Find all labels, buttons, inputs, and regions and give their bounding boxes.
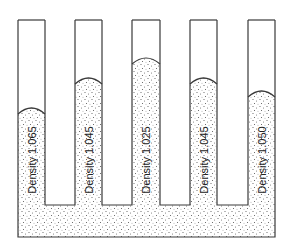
- density-label-3: Density 1.025: [140, 126, 152, 193]
- density-label-5: Density 1.050: [256, 126, 268, 193]
- density-label-2: Density 1.045: [83, 126, 95, 193]
- density-label-4: Density 1.045: [198, 126, 210, 193]
- tube-gap-wall-2: [102, 20, 132, 205]
- base-fluid: [18, 205, 275, 237]
- tube-gap-wall-3: [160, 20, 190, 205]
- communicating-vessels-diagram: Density 1.065Density 1.045Density 1.025D…: [0, 0, 295, 247]
- density-label-1: Density 1.065: [26, 126, 38, 193]
- density-labels: Density 1.065Density 1.045Density 1.025D…: [26, 126, 268, 193]
- tube-gap-wall-4: [217, 20, 248, 205]
- tube-gap-wall-1: [45, 20, 75, 205]
